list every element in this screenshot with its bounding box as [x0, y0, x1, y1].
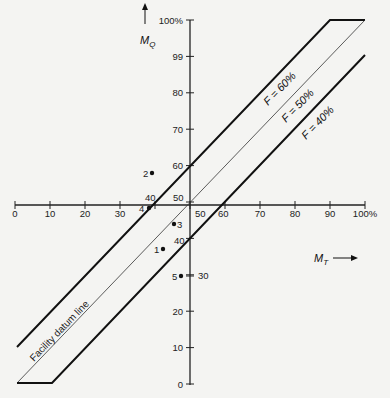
point-2-label: 2 — [143, 168, 148, 179]
chart-canvas: 0102030708090100% 0102060708099100% F = … — [0, 0, 390, 398]
f40-line — [17, 55, 365, 383]
f40-label: F = 40% — [299, 103, 336, 141]
point-2 — [150, 171, 154, 175]
svg-text:0: 0 — [12, 208, 17, 219]
int-60-right: 60 — [218, 208, 229, 219]
svg-text:60: 60 — [172, 160, 183, 171]
f60-line — [17, 20, 365, 347]
y-axis-title: MQ — [140, 3, 155, 49]
svg-text:0: 0 — [178, 379, 183, 390]
svg-text:100%: 100% — [159, 15, 184, 26]
svg-text:90: 90 — [325, 208, 336, 219]
int-50-center: 50 — [173, 192, 184, 203]
svg-text:30: 30 — [115, 208, 126, 219]
svg-text:70: 70 — [255, 208, 266, 219]
point-1-label: 1 — [154, 244, 159, 255]
svg-text:70: 70 — [172, 124, 183, 135]
svg-text:MQ: MQ — [140, 34, 155, 49]
point-3-label: 3 — [177, 219, 182, 230]
svg-text:20: 20 — [80, 208, 91, 219]
svg-text:MT: MT — [314, 252, 329, 267]
svg-text:100%: 100% — [353, 208, 378, 219]
svg-text:10: 10 — [172, 342, 183, 353]
int-40-below: 40 — [174, 235, 185, 246]
point-5-label: 5 — [172, 271, 177, 282]
point-5 — [179, 274, 183, 278]
svg-text:99: 99 — [172, 51, 183, 62]
datum-line — [17, 20, 365, 383]
point-1 — [161, 247, 165, 251]
svg-text:80: 80 — [290, 208, 301, 219]
int-40-top: 40 — [145, 192, 156, 203]
x-axis-title: MT — [314, 252, 358, 267]
int-50-right: 50 — [195, 208, 206, 219]
int-30-below: 30 — [198, 270, 209, 281]
svg-text:80: 80 — [172, 87, 183, 98]
f50-label: F = 50% — [279, 86, 316, 124]
data-points: 1 2 3 4 5 — [139, 168, 183, 282]
point-4 — [147, 206, 151, 210]
point-3 — [172, 222, 176, 226]
svg-text:20: 20 — [172, 306, 183, 317]
datum-label: Facility datum line — [28, 298, 92, 364]
svg-text:10: 10 — [45, 208, 56, 219]
point-4-label: 4 — [139, 203, 144, 214]
